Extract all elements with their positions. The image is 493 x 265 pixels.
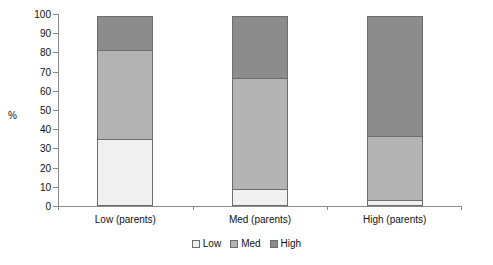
x-tick-mark xyxy=(58,206,59,210)
y-tick-label: 20 xyxy=(40,162,51,173)
x-category-label-3: High (parents) xyxy=(363,214,426,225)
bar-segment-med[interactable] xyxy=(232,78,288,189)
legend-label-high: High xyxy=(281,238,302,249)
y-axis-title: % xyxy=(8,110,17,121)
bar-segment-low[interactable] xyxy=(97,139,153,206)
y-tick-label: 100 xyxy=(34,9,51,20)
y-tick-label: 0 xyxy=(45,201,51,212)
y-tick-mark xyxy=(53,52,58,53)
y-tick-mark xyxy=(53,14,58,15)
legend-swatch-low-icon xyxy=(192,240,200,248)
y-tick-mark xyxy=(53,110,58,111)
y-tick-label: 90 xyxy=(40,28,51,39)
y-tick-label: 70 xyxy=(40,66,51,77)
x-tick-mark xyxy=(193,206,194,210)
legend-item-med[interactable]: Med xyxy=(230,238,260,249)
y-tick-label: 50 xyxy=(40,105,51,116)
bar-segment-med[interactable] xyxy=(97,50,153,140)
legend-label-med: Med xyxy=(241,238,260,249)
legend-item-low[interactable]: Low xyxy=(192,238,221,249)
bar-segment-low[interactable] xyxy=(367,200,423,206)
x-tick-mark xyxy=(461,206,462,210)
bar-2[interactable] xyxy=(232,16,288,206)
x-tick-mark xyxy=(327,206,328,210)
bar-3[interactable] xyxy=(367,16,423,206)
legend-swatch-high-icon xyxy=(270,240,278,248)
x-category-label-1: Low (parents) xyxy=(95,214,156,225)
legend-item-high[interactable]: High xyxy=(270,238,302,249)
bar-segment-low[interactable] xyxy=(232,189,288,206)
bar-segment-high[interactable] xyxy=(232,16,288,79)
bar-1[interactable] xyxy=(97,16,153,206)
x-category-label-2: Med (parents) xyxy=(229,214,291,225)
y-tick-mark xyxy=(53,168,58,169)
y-tick-mark xyxy=(53,187,58,188)
y-axis-line xyxy=(58,14,59,206)
bar-segment-med[interactable] xyxy=(367,136,423,201)
y-tick-mark xyxy=(53,91,58,92)
y-tick-label: 40 xyxy=(40,124,51,135)
y-tick-mark xyxy=(53,72,58,73)
bar-segment-high[interactable] xyxy=(97,16,153,51)
stacked-bar-chart: % 0102030405060708090100 Low (parents)Me… xyxy=(0,0,493,265)
y-tick-label: 10 xyxy=(40,181,51,192)
y-tick-mark xyxy=(53,129,58,130)
plot-area: 0102030405060708090100 Low (parents)Med … xyxy=(58,14,462,206)
legend-label-low: Low xyxy=(203,238,221,249)
y-tick-label: 30 xyxy=(40,143,51,154)
y-tick-label: 80 xyxy=(40,47,51,58)
y-tick-label: 60 xyxy=(40,85,51,96)
y-tick-mark xyxy=(53,148,58,149)
legend-swatch-med-icon xyxy=(230,240,238,248)
bar-segment-high[interactable] xyxy=(367,16,423,137)
x-axis-line xyxy=(58,206,462,207)
y-tick-mark xyxy=(53,33,58,34)
legend: Low Med High xyxy=(0,238,493,249)
